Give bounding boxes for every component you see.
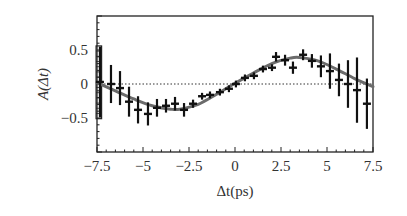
data-point xyxy=(153,99,161,117)
data-point xyxy=(317,55,325,77)
y-tick-labels: 0.50−0.5 xyxy=(61,42,88,126)
y-tick-label: −0.5 xyxy=(61,110,88,126)
x-axis-title: Δt(ps) xyxy=(216,183,253,200)
asymmetry-chart: −7.5−5−2.502.557.5 0.50−0.5 Δt(ps) A(Δt) xyxy=(0,0,407,216)
y-tick-label: 0.5 xyxy=(69,42,88,58)
data-point xyxy=(326,53,334,88)
data-point xyxy=(289,62,297,74)
x-tick-label: −2.5 xyxy=(175,158,202,174)
y-tick-label: 0 xyxy=(81,76,89,92)
data-point xyxy=(180,103,188,117)
data-point xyxy=(353,57,361,122)
data-point xyxy=(162,99,170,113)
data-point xyxy=(308,54,316,68)
data-point xyxy=(125,87,133,117)
x-tick-label: 2.5 xyxy=(272,158,291,174)
data-point xyxy=(116,71,124,105)
x-tick-label: 0 xyxy=(231,158,239,174)
x-tick-label: −5 xyxy=(135,158,151,174)
x-tick-label: −7.5 xyxy=(83,158,110,174)
data-point xyxy=(198,93,206,100)
y-axis-title: A(Δt) xyxy=(35,68,52,101)
data-point xyxy=(107,65,115,103)
x-tick-label: 7.5 xyxy=(364,158,383,174)
data-points xyxy=(96,47,371,129)
x-tick-labels: −7.5−5−2.502.557.5 xyxy=(83,158,382,174)
x-tick-label: 5 xyxy=(323,158,331,174)
data-point xyxy=(281,55,289,66)
data-point xyxy=(344,60,352,108)
